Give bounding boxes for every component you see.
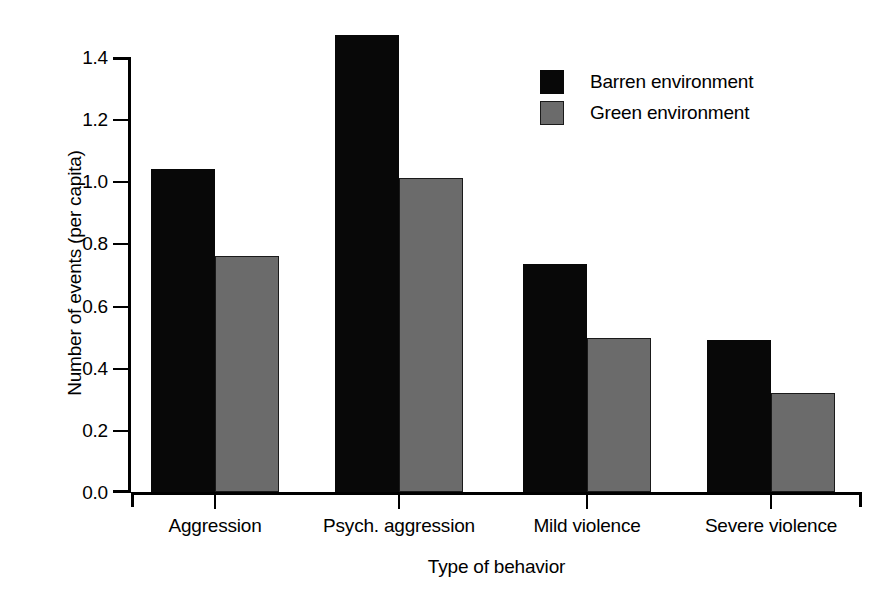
x-axis-tick-mark xyxy=(770,492,772,509)
y-axis-tick-label: 0.8 xyxy=(62,234,108,253)
x-axis-right-cap xyxy=(859,492,862,507)
y-axis-bottom-cap xyxy=(113,490,131,493)
x-axis-tick-label: Severe violence xyxy=(661,515,871,537)
bar-severe-violence-barren xyxy=(707,340,771,492)
bar-chart-figure: Number of events (per capita) 0.00.20.40… xyxy=(0,0,871,603)
x-axis-left-cap xyxy=(131,492,134,507)
gray-square-swatch xyxy=(540,101,564,125)
x-axis-title: Type of behavior xyxy=(131,556,862,578)
y-axis-tick-mark xyxy=(113,119,129,121)
bar-severe-violence-green xyxy=(771,393,835,492)
x-axis-tick-mark xyxy=(586,492,588,509)
bar-aggression-green xyxy=(215,256,279,492)
y-axis-tick-label: 1.0 xyxy=(62,172,108,191)
bar-aggression-barren xyxy=(151,169,215,492)
bar-psych-aggression-green xyxy=(399,178,463,492)
y-axis-tick-mark xyxy=(113,243,129,245)
y-axis-tick-label: 1.4 xyxy=(62,48,108,67)
bar-psych-aggression-barren xyxy=(335,35,399,492)
y-axis-top-cap xyxy=(113,57,131,60)
black-square-swatch xyxy=(540,70,564,94)
legend-item-barren: Barren environment xyxy=(540,66,753,97)
bar-mild-violence-green xyxy=(587,338,651,492)
y-axis-tick-mark xyxy=(113,368,129,370)
chart-legend: Barren environmentGreen environment xyxy=(540,66,753,128)
y-axis-tick-label: 0.4 xyxy=(62,359,108,378)
y-axis-tick-label: 0.2 xyxy=(62,421,108,440)
x-axis-tick-label: Psych. aggression xyxy=(289,515,509,537)
y-axis-tick-mark xyxy=(113,430,129,432)
y-axis-tick-label: 0.0 xyxy=(62,483,108,502)
x-axis-tick-mark xyxy=(398,492,400,509)
y-axis-tick-mark xyxy=(113,181,129,183)
y-axis-tick-label: 1.2 xyxy=(62,110,108,129)
legend-item-label: Barren environment xyxy=(590,71,753,93)
y-axis-tick-label: 0.6 xyxy=(62,297,108,316)
legend-item-green: Green environment xyxy=(540,97,753,128)
y-axis-tick-mark xyxy=(113,306,129,308)
legend-item-label: Green environment xyxy=(590,102,749,124)
x-axis-line xyxy=(131,492,862,495)
x-axis-tick-mark xyxy=(214,492,216,509)
bar-mild-violence-barren xyxy=(523,264,587,492)
